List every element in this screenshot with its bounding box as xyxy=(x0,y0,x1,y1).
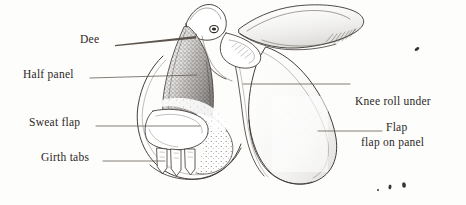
ink-speck xyxy=(388,184,392,189)
label-knee-roll-line2: flap on panel xyxy=(355,136,431,150)
near-flap xyxy=(249,47,337,184)
label-sweat-flap: Sweat flap xyxy=(29,116,80,130)
ink-speck xyxy=(402,182,407,188)
girth-tabs xyxy=(157,148,195,176)
girth-tab xyxy=(185,149,195,175)
label-knee-roll-line1: Knee roll under xyxy=(355,95,431,109)
figure-page: Dee Half panel Sweat flap Girth tabs Kne… xyxy=(0,0,466,205)
ink-speck xyxy=(377,189,379,191)
ink-speck xyxy=(414,46,420,51)
seat-and-cantle xyxy=(239,5,364,50)
label-girth-tabs: Girth tabs xyxy=(41,151,89,165)
label-flap: Flap xyxy=(386,121,407,135)
label-dee: Dee xyxy=(80,33,99,47)
label-half-panel: Half panel xyxy=(23,68,74,82)
